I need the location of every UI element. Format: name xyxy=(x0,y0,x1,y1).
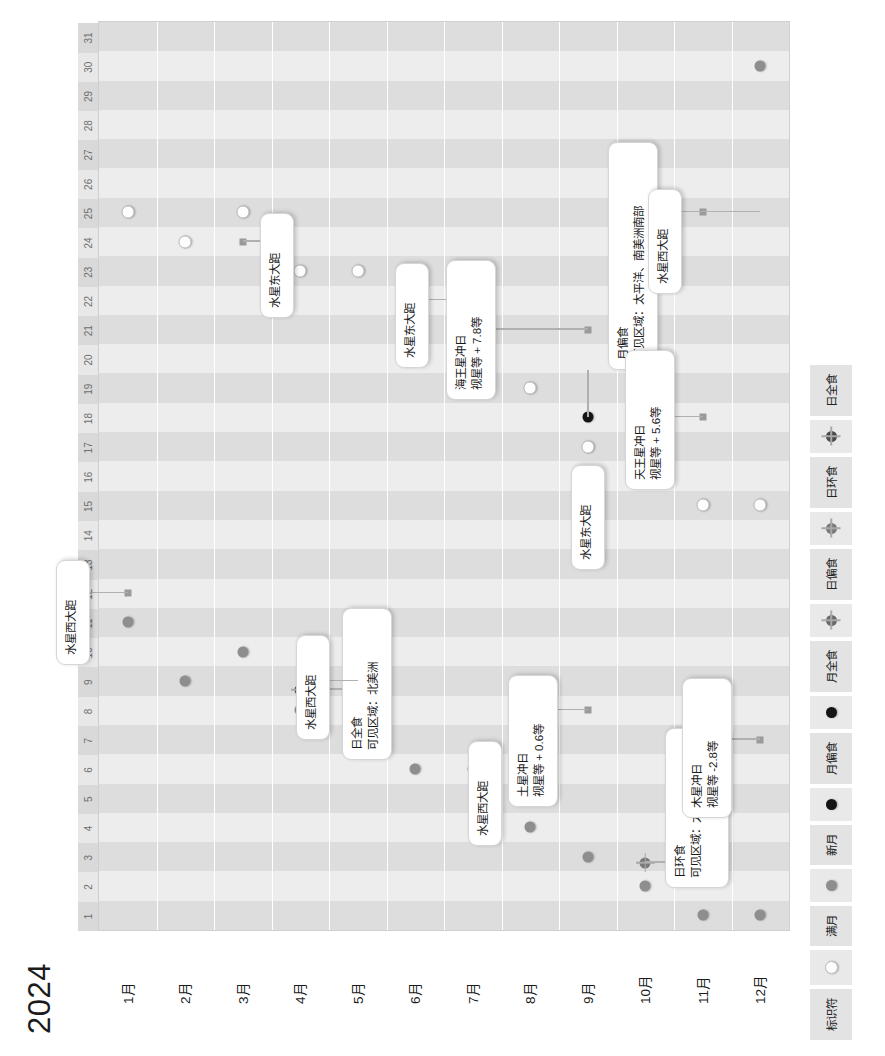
new-moon-icon xyxy=(640,881,651,892)
legend-icon-cell-5 xyxy=(810,512,852,545)
total-lunar-eclipse-icon xyxy=(826,707,837,718)
day-header-16: 16 xyxy=(78,463,98,492)
new-moon-icon xyxy=(180,676,191,687)
partial-solar-eclipse-icon xyxy=(826,615,837,626)
new-moon-icon xyxy=(826,880,837,891)
callout-leader-line xyxy=(90,592,128,594)
calendar-grid: 水星西大距水星东大距日全食可见区域：北美洲水星西大距水星东大距水星西大距土星冲日… xyxy=(98,21,790,931)
partial-lunar-eclipse-icon xyxy=(826,799,837,810)
month-label-7月: 7月 xyxy=(443,934,501,1034)
day-header-29: 29 xyxy=(78,82,98,111)
poster-rotation-wrapper: 2024 标识符满月新月月偏食月全食日偏食日环食日全食 123456789101… xyxy=(0,0,885,1056)
legend-label-5: 日环食 xyxy=(810,457,852,508)
legend-label-1: 新月 xyxy=(810,825,852,865)
legend-icon-cell-2 xyxy=(810,788,852,821)
callout-line1: 水星西大距 xyxy=(656,199,672,284)
legend-label-2: 月偏食 xyxy=(810,733,852,784)
callout-apr-total-solar[interactable]: 日全食可见区域：北美洲 xyxy=(342,608,392,760)
new-moon-icon xyxy=(525,822,536,833)
month-separator xyxy=(387,22,388,930)
day-header-2: 2 xyxy=(78,872,98,901)
callout-line1: 木星冲日 xyxy=(690,688,706,808)
day-header-22: 22 xyxy=(78,287,98,316)
day-header-1: 1 xyxy=(78,902,98,931)
callout-line1: 日全食 xyxy=(350,618,366,750)
legend-icon-cell-4 xyxy=(810,604,852,637)
month-separator xyxy=(444,22,445,930)
legend-divider xyxy=(810,692,852,696)
month-label-11月: 11月 xyxy=(673,934,731,1034)
day-header-18: 18 xyxy=(78,404,98,433)
callout-leader-line xyxy=(330,680,358,682)
day-header-6: 6 xyxy=(78,755,98,784)
callout-oct-mercury-east[interactable]: 水星东大距 xyxy=(571,465,605,570)
callout-jan-mercury-west[interactable]: 水星西大距 xyxy=(56,560,90,665)
legend-divider xyxy=(810,453,852,457)
callout-dec-jupiter-opp[interactable]: 木星冲日视星等 -2.8等 xyxy=(682,678,732,818)
legend-divider xyxy=(810,508,852,512)
full-moon-icon xyxy=(236,206,249,219)
callout-sep-neptune-opp[interactable]: 海王星冲日视星等 + 7.8等 xyxy=(446,260,496,400)
full-moon-icon xyxy=(179,235,192,248)
month-label-12月: 12月 xyxy=(731,934,789,1034)
month-label-9月: 9月 xyxy=(558,934,616,1034)
legend-divider xyxy=(810,946,852,950)
day-header-25: 25 xyxy=(78,199,98,228)
new-moon-icon xyxy=(697,910,708,921)
callout-line2: 可见区域：太平洋、南美洲南部 xyxy=(632,152,648,360)
callout-aug-mercury-west[interactable]: 水星西大距 xyxy=(468,741,502,846)
day-header-31: 31 xyxy=(78,23,98,52)
month-label-6月: 6月 xyxy=(386,934,444,1034)
new-moon-icon xyxy=(122,617,133,628)
day-header-7: 7 xyxy=(78,726,98,755)
callout-leader-line xyxy=(732,738,760,740)
legend-divider xyxy=(810,637,852,641)
legend-label-4: 日偏食 xyxy=(810,549,852,600)
total-solar-eclipse-icon xyxy=(826,431,837,442)
callout-line2: 视星等 + 0.6等 xyxy=(532,685,548,797)
legend-divider xyxy=(810,985,852,989)
month-separator xyxy=(329,22,330,930)
day-header-9: 9 xyxy=(78,667,98,696)
legend-icon-cell-6 xyxy=(810,420,852,453)
month-label-3月: 3月 xyxy=(213,934,271,1034)
callout-may-mercury-west[interactable]: 水星西大距 xyxy=(296,635,330,740)
day-header-26: 26 xyxy=(78,170,98,199)
day-header-4: 4 xyxy=(78,814,98,843)
day-header-5: 5 xyxy=(78,785,98,814)
callout-nov-uranus-opp[interactable]: 天王星冲日视星等 + 5.6等 xyxy=(625,350,675,490)
day-header-20: 20 xyxy=(78,345,98,374)
legend-label-3: 月全食 xyxy=(810,641,852,692)
day-header-15: 15 xyxy=(78,492,98,521)
month-separator xyxy=(214,22,215,930)
day-header-21: 21 xyxy=(78,316,98,345)
legend: 标识符满月新月月偏食月全食日偏食日环食日全食 xyxy=(810,365,852,1040)
full-moon-icon xyxy=(696,499,709,512)
callout-jul-mercury-east[interactable]: 水星东大距 xyxy=(395,263,429,368)
callout-leader-line xyxy=(496,328,588,330)
legend-icon-cell-0 xyxy=(810,950,852,985)
month-label-5月: 5月 xyxy=(328,934,386,1034)
legend-divider xyxy=(810,545,852,549)
callout-line1: 土星冲日 xyxy=(516,685,532,797)
callout-mar-mercury-east[interactable]: 水星东大距 xyxy=(260,213,294,318)
full-moon-icon xyxy=(581,440,594,453)
callout-dec-mercury-west[interactable]: 水星西大距 xyxy=(648,189,682,294)
callout-line2: 可见区域：北美洲 xyxy=(366,618,382,750)
callout-line2: 视星等 -2.8等 xyxy=(706,688,722,808)
full-moon-icon xyxy=(754,499,767,512)
callout-leader-line xyxy=(675,416,703,418)
month-label-1月: 1月 xyxy=(98,934,156,1034)
full-moon-icon xyxy=(524,382,537,395)
new-moon-icon xyxy=(410,763,421,774)
month-separator xyxy=(559,22,560,930)
callout-line1: 海王星冲日 xyxy=(454,270,470,390)
callout-line1: 水星东大距 xyxy=(579,475,595,560)
callout-sep-saturn-opp[interactable]: 土星冲日视星等 + 0.6等 xyxy=(508,675,558,807)
new-moon-icon xyxy=(755,910,766,921)
legend-divider xyxy=(810,865,852,869)
callout-line1: 水星东大距 xyxy=(268,223,284,308)
month-label-10月: 10月 xyxy=(616,934,674,1034)
callout-line2: 视星等 + 5.6等 xyxy=(649,360,665,480)
day-number-header: 1234567891011121314151617181920212223242… xyxy=(78,23,98,931)
